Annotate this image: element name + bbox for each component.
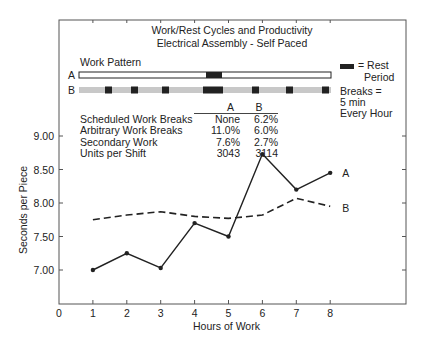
x-axis-label: Hours of Work: [193, 320, 261, 332]
table-col-a: A: [194, 102, 240, 114]
pattern-a-label: A: [68, 69, 75, 81]
series-a-marker: [159, 266, 163, 270]
chart-title: Work/Rest Cycles and Productivity: [0, 24, 428, 36]
legend-rest-text: = Rest: [358, 59, 389, 71]
breaks-note-line3: Every Hour: [340, 107, 393, 119]
x-tick-label: 6: [259, 307, 265, 319]
x-tick-label: 4: [192, 307, 198, 319]
table-col-b: B: [240, 102, 278, 114]
series-a-marker: [91, 268, 95, 272]
pattern-b-label: B: [68, 84, 75, 96]
series-a-marker: [125, 251, 129, 255]
x-tick-label: 7: [293, 307, 299, 319]
series-b-line: [93, 198, 330, 219]
rest-block-b: [162, 87, 169, 94]
table-header-row: A B: [80, 102, 278, 114]
row-value-b: 3114: [240, 148, 278, 159]
chart-canvas: 0123456787.007.508.008.509.00Hours of Wo…: [0, 0, 428, 352]
series-a-marker: [328, 171, 332, 175]
work-pattern-a-bar: [79, 72, 331, 78]
y-tick-label: 7.50: [34, 231, 55, 243]
rest-block-b: [286, 87, 293, 94]
series-a-marker: [226, 234, 230, 238]
table-row: Arbitrary Work Breaks 11.0% 6.0%: [80, 125, 278, 136]
x-tick-label: 1: [90, 307, 96, 319]
rest-block-a: [206, 72, 222, 78]
x-tick-label: 8: [327, 307, 333, 319]
row-label: Arbitrary Work Breaks: [80, 125, 194, 136]
row-value-a: 11.0%: [194, 125, 240, 136]
rest-block-b: [322, 87, 329, 94]
y-axis-label: Seconds per Piece: [17, 166, 29, 254]
series-a-label: A: [342, 167, 349, 179]
series-b-label: B: [342, 202, 349, 214]
rest-block-b: [252, 87, 259, 94]
y-tick-label: 9.00: [34, 130, 55, 142]
rest-block-b: [131, 87, 138, 94]
x-tick-label: 0: [56, 307, 62, 319]
row-value-a: 3043: [194, 148, 240, 159]
row-label: Units per Shift: [80, 148, 194, 159]
work-pattern-label: Work Pattern: [80, 56, 141, 68]
legend-period-text: Period: [364, 71, 394, 83]
comparison-table: A B Scheduled Work Breaks None 6.2% Arbi…: [80, 102, 278, 159]
x-tick-label: 2: [124, 307, 130, 319]
series-a-marker: [192, 221, 196, 225]
rest-block-b: [203, 87, 223, 94]
row-value-b: 6.0%: [240, 125, 278, 136]
series-a-marker: [294, 187, 298, 191]
x-tick-label: 3: [158, 307, 164, 319]
rest-block-b: [105, 87, 112, 94]
y-tick-label: 7.00: [34, 264, 55, 276]
chart-subtitle: Electrical Assembly - Self Paced: [0, 37, 428, 49]
x-tick-label: 5: [226, 307, 232, 319]
y-tick-label: 8.00: [34, 197, 55, 209]
table-row: Units per Shift 3043 3114: [80, 148, 278, 159]
y-tick-label: 8.50: [34, 164, 55, 176]
rest-legend-swatch: [340, 64, 354, 69]
